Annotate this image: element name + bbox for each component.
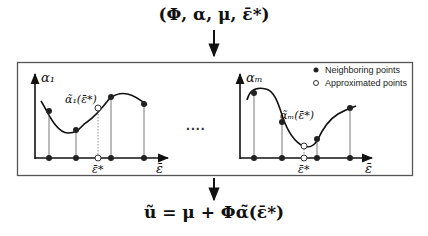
left-plot: α₁ α̃₁(ε̄*) ε̄* ε̄ xyxy=(35,70,168,176)
neighboring-point xyxy=(141,101,147,107)
right-approx-label: α̃ₘ(ε̄*) xyxy=(280,109,314,122)
neighboring-point xyxy=(73,155,79,161)
neighboring-point xyxy=(73,127,79,133)
legend-neighboring-label: Neighboring points xyxy=(325,65,401,75)
neighboring-point xyxy=(108,155,114,161)
left-approx-label: α̃₁(ε̄*) xyxy=(65,93,97,106)
neighboring-point xyxy=(347,105,353,111)
output-formula: ũ = μ + Φα̃(ε̄*) xyxy=(0,202,428,222)
neighboring-point xyxy=(46,108,52,114)
legend: Neighboring points Approximated points xyxy=(314,65,408,88)
right-x-star-label: ε̄* xyxy=(298,163,310,176)
neighboring-point xyxy=(141,155,147,161)
left-x-axis-label: ε̄ xyxy=(156,161,163,176)
neighboring-point xyxy=(251,90,257,96)
neighboring-point xyxy=(347,155,353,161)
approximated-point xyxy=(301,143,307,149)
right-y-axis-label: αₘ xyxy=(246,70,263,85)
neighboring-point xyxy=(314,155,320,161)
neighboring-point xyxy=(314,136,320,142)
left-x-star-label: ε̄* xyxy=(92,163,104,176)
legend-approximated-label: Approximated points xyxy=(325,78,408,88)
neighboring-point xyxy=(279,155,285,161)
neighboring-point xyxy=(46,155,52,161)
approximated-point xyxy=(301,155,307,161)
left-y-axis-label: α₁ xyxy=(41,70,55,85)
legend-approximated-marker xyxy=(314,81,319,86)
neighboring-point xyxy=(251,155,257,161)
ellipsis: .... xyxy=(186,117,206,133)
legend-neighboring-marker xyxy=(314,68,319,73)
diagram-canvas: α₁ α̃₁(ε̄*) ε̄* ε̄ .... αₘ α̃ₘ(ε̄*) ε̄* … xyxy=(0,0,428,236)
neighboring-point xyxy=(108,94,114,100)
right-x-axis-label: ε̄ xyxy=(365,161,372,176)
approximated-point xyxy=(95,155,101,161)
